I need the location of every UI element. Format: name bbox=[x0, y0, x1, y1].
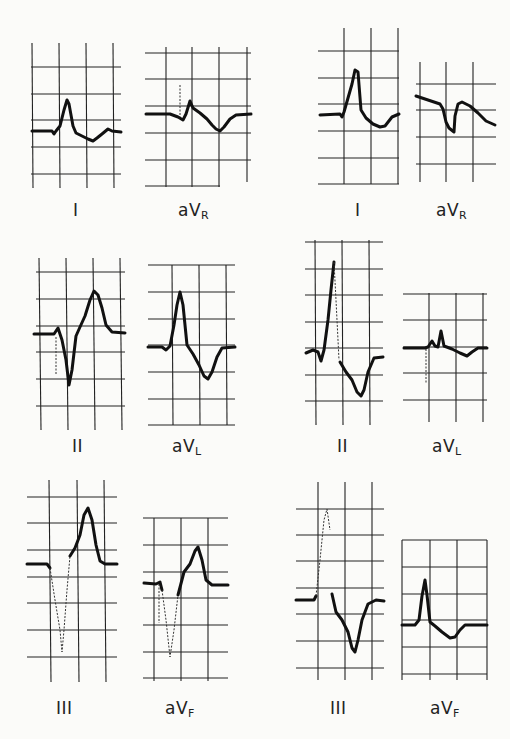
lead-label-right-aVF: aVF bbox=[430, 698, 460, 720]
ecg-trace bbox=[402, 580, 487, 638]
lead-label-left-I: I bbox=[73, 200, 79, 222]
ecg-grid bbox=[402, 540, 487, 680]
panel-right-lead-III bbox=[296, 482, 384, 680]
ecg-grid bbox=[318, 28, 399, 184]
ecg-grid bbox=[296, 482, 384, 680]
ecg-trace bbox=[340, 357, 383, 396]
ecg-grid bbox=[36, 258, 125, 430]
lead-label-left-aVR: aVR bbox=[178, 200, 209, 222]
ecg-figure bbox=[0, 0, 510, 739]
ecg-grid bbox=[305, 240, 383, 425]
lead-label-left-II: II bbox=[72, 436, 83, 458]
ecg-grid bbox=[27, 480, 117, 682]
ecg-trace bbox=[34, 291, 125, 385]
ecg-trace-fast bbox=[162, 590, 178, 657]
ecg-grid bbox=[403, 293, 487, 422]
panel-right-lead-aVL bbox=[403, 293, 487, 422]
lead-label-right-aVL: aVL bbox=[432, 436, 462, 458]
lead-label-left-aVF: aVF bbox=[165, 698, 195, 720]
ecg-trace bbox=[296, 596, 316, 600]
ecg-trace bbox=[404, 331, 487, 356]
panel-right-lead-II bbox=[305, 240, 383, 425]
lead-label-right-I: I bbox=[355, 200, 361, 222]
panel-right-lead-aVF bbox=[402, 540, 487, 680]
ecg-trace bbox=[416, 96, 495, 132]
ecg-trace bbox=[178, 547, 228, 595]
panel-left-lead-II bbox=[34, 258, 125, 430]
ecg-trace bbox=[148, 292, 235, 379]
ecg-grid bbox=[31, 43, 121, 188]
panel-right-lead-aVR bbox=[416, 62, 496, 182]
panel-left-lead-aVL bbox=[148, 265, 235, 425]
ecg-trace bbox=[27, 564, 50, 568]
panel-left-lead-aVR bbox=[145, 47, 251, 187]
ecg-trace bbox=[332, 594, 384, 652]
lead-label-left-III: III bbox=[56, 698, 73, 720]
ecg-grid bbox=[148, 265, 235, 425]
ecg-grid bbox=[143, 518, 228, 681]
lead-label-right-II: II bbox=[337, 436, 348, 458]
ecg-trace bbox=[320, 70, 399, 127]
lead-label-left-aVL: aVL bbox=[172, 436, 202, 458]
ecg-trace bbox=[306, 262, 334, 361]
panel-right-lead-I bbox=[318, 28, 399, 184]
ecg-trace-fast bbox=[50, 556, 70, 652]
lead-label-right-III: III bbox=[330, 698, 347, 720]
lead-label-right-aVR: aVR bbox=[436, 200, 467, 222]
ecg-trace-fast bbox=[334, 262, 339, 360]
panel-left-lead-aVF bbox=[143, 518, 228, 681]
panel-left-lead-I bbox=[31, 43, 121, 188]
panel-left-lead-III bbox=[27, 480, 117, 682]
